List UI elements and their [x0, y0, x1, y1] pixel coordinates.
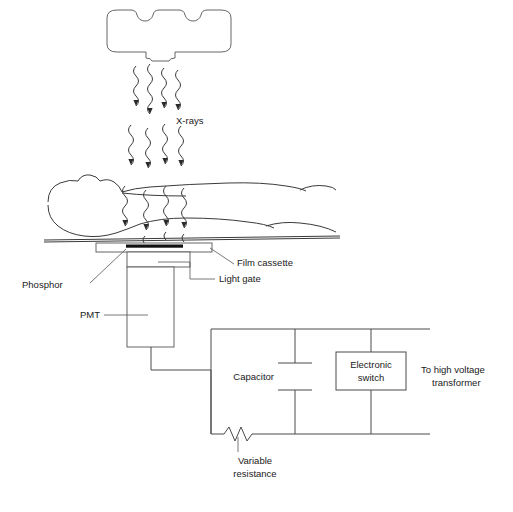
xray-aec-diagram: X-rays Film cassette	[0, 0, 513, 512]
phosphor-label: Phosphor	[22, 279, 63, 290]
transformer-label-line2: transformer	[432, 377, 481, 388]
film-cassette	[96, 243, 212, 252]
variable-resistance-label-line1: Variable	[238, 455, 272, 466]
phosphor-leader	[90, 249, 126, 283]
variable-resistance-label-line2: resistance	[233, 468, 276, 479]
pmt-circuit-wire	[151, 347, 211, 434]
capacitor-symbol	[278, 329, 312, 434]
phosphor-strip	[126, 245, 183, 248]
patient-figure	[48, 175, 336, 237]
capacitor-label: Capacitor	[233, 371, 274, 382]
electronic-switch-label-line1: Electronic	[350, 359, 392, 370]
light-gate-label: Light gate	[219, 273, 261, 284]
electronic-switch-label-line2: switch	[358, 372, 384, 383]
pmt-label: PMT	[80, 309, 100, 320]
transformer-label-line1: To high voltage	[421, 364, 485, 375]
xray-beam-group	[122, 64, 186, 244]
film-cassette-label: Film cassette	[237, 257, 293, 268]
pmt-body	[127, 267, 174, 347]
light-gate-box	[127, 252, 190, 267]
diagram-canvas: X-rays Film cassette	[0, 0, 513, 512]
film-cassette-leader	[210, 248, 234, 264]
xrays-label: X-rays	[176, 115, 204, 126]
circuit-network	[211, 329, 430, 452]
xray-tube-housing	[107, 10, 231, 61]
